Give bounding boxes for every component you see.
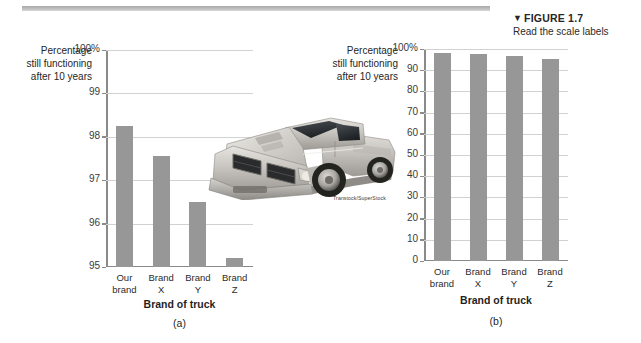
x-category-label: Brand X (143, 272, 180, 296)
bar (116, 126, 133, 267)
bar (506, 56, 523, 261)
y-tick-mark (420, 218, 424, 220)
chart-b-panel-letter: (b) (424, 315, 568, 327)
y-tick-label: 97 (60, 173, 100, 184)
y-tick-label: 96 (60, 217, 100, 228)
photo-credit: Transtock/SuperStock (333, 195, 386, 201)
bar (542, 59, 559, 261)
y-tick-label: 90 (378, 63, 418, 74)
y-tick-mark (420, 176, 424, 178)
y-tick-label: 0 (378, 254, 418, 265)
y-tick-mark (102, 50, 106, 52)
x-category-label: Our brand (106, 272, 143, 296)
y-tick-mark (102, 180, 106, 182)
y-tick-mark (102, 136, 106, 138)
y-tick-label: 20 (378, 212, 418, 223)
bar (434, 53, 451, 261)
y-tick-mark (420, 112, 424, 114)
y-tick-mark (102, 93, 106, 95)
chart-b-plot-area (424, 49, 568, 261)
y-tick-label: 10 (378, 233, 418, 244)
y-tick-mark (420, 155, 424, 157)
y-tick-mark (420, 133, 424, 135)
y-tick-mark (102, 267, 106, 269)
y-tick-label: 100% (378, 42, 418, 53)
y-tick-mark (420, 91, 424, 93)
x-category-label: Brand Y (180, 272, 217, 296)
y-tick-label: 95 (60, 260, 100, 271)
y-tick-mark (420, 49, 424, 51)
y-tick-label: 98 (60, 130, 100, 141)
bar (153, 156, 170, 267)
chart-a-x-axis-title: Brand of truck (106, 298, 253, 310)
y-tick-mark (420, 197, 424, 199)
bar (189, 202, 206, 267)
chart-a-panel-letter: (a) (106, 317, 253, 329)
bar (226, 258, 243, 267)
y-tick-mark (420, 239, 424, 241)
y-tick-mark (102, 223, 106, 225)
y-tick-mark (420, 261, 424, 263)
x-category-label: Brand Z (532, 266, 568, 290)
x-category-label: Brand Z (216, 272, 253, 296)
gridline (106, 50, 253, 51)
chart-b-x-axis-title: Brand of truck (424, 294, 568, 306)
y-tick-label: 99 (60, 86, 100, 97)
x-category-label: Our brand (424, 266, 460, 290)
gridline (424, 49, 568, 50)
bar (470, 54, 487, 261)
y-tick-mark (420, 70, 424, 72)
x-category-label: Brand Y (496, 266, 532, 290)
chart-a-y-axis-line (106, 50, 108, 267)
pickup-truck-photo (203, 94, 403, 200)
y-tick-label: 100% (60, 43, 100, 54)
x-category-label: Brand X (460, 266, 496, 290)
